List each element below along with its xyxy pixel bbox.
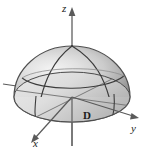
region-label-d: D (83, 110, 91, 121)
axis-label-x: x (33, 138, 38, 149)
pole-point (71, 45, 73, 47)
axis-label-z: z (62, 3, 66, 14)
axis-label-y: y (131, 123, 136, 134)
figure-canvas (0, 0, 144, 154)
hemisphere-figure: z y x D (0, 0, 144, 154)
